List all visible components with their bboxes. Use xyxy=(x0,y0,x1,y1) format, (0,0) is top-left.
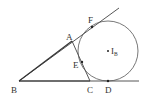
point-f-dot xyxy=(91,26,93,28)
point-d-dot xyxy=(107,80,109,82)
label-ib: IB xyxy=(111,46,118,57)
label-d: D xyxy=(105,85,112,95)
label-a: A xyxy=(66,32,73,42)
label-ib-subscript: B xyxy=(114,51,118,57)
point-ib-dot xyxy=(107,50,109,52)
label-b: B xyxy=(11,85,17,95)
label-f: F xyxy=(88,15,93,25)
segment-ab xyxy=(19,41,72,81)
excircle-diagram: A B C D E F IB xyxy=(0,0,148,98)
point-e-dot xyxy=(81,61,83,63)
label-c: C xyxy=(87,85,93,95)
label-e: E xyxy=(73,60,79,70)
diagram-canvas: A B C D E F IB xyxy=(0,0,148,98)
